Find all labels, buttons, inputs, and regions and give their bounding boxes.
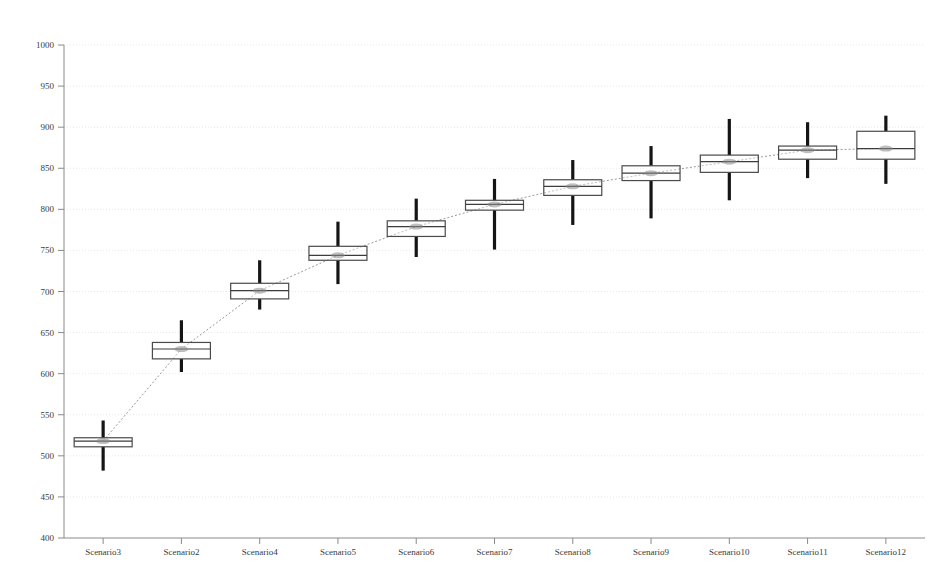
x-tick-label: Scenario2 bbox=[163, 547, 199, 557]
y-tick-label: 750 bbox=[41, 245, 55, 255]
y-tick-label: 500 bbox=[41, 451, 55, 461]
y-tick-label: 900 bbox=[41, 122, 55, 132]
box-plot-item[interactable] bbox=[622, 146, 680, 218]
x-axis-labels: Scenario3Scenario2Scenario4Scenario5Scen… bbox=[85, 547, 906, 557]
mean-marker bbox=[722, 159, 736, 165]
box-plot-item[interactable] bbox=[309, 222, 367, 284]
x-tick-label: Scenario8 bbox=[555, 547, 591, 557]
box-plot-item[interactable] bbox=[152, 320, 210, 372]
box-plot-item[interactable] bbox=[779, 122, 837, 178]
y-tick-label: 550 bbox=[41, 410, 55, 420]
chart-canvas: 4004505005506006507007508008509009501000… bbox=[0, 0, 952, 585]
x-tick-label: Scenario5 bbox=[320, 547, 356, 557]
mean-marker bbox=[174, 346, 188, 352]
mean-marker bbox=[488, 201, 502, 207]
y-tick-label: 1000 bbox=[36, 40, 55, 50]
y-tick-label: 650 bbox=[41, 328, 55, 338]
box-plot-item[interactable] bbox=[74, 421, 132, 471]
x-tick-label: Scenario9 bbox=[633, 547, 669, 557]
y-axis-ticks bbox=[58, 45, 64, 538]
mean-marker bbox=[801, 147, 815, 153]
box-plot-item[interactable] bbox=[231, 260, 289, 309]
y-tick-label: 950 bbox=[41, 81, 55, 91]
x-tick-label: Scenario7 bbox=[477, 547, 513, 557]
mean-marker bbox=[96, 438, 110, 444]
box-plots bbox=[74, 116, 915, 471]
y-tick-label: 450 bbox=[41, 492, 55, 502]
y-tick-label: 850 bbox=[41, 163, 55, 173]
box-plot-item[interactable] bbox=[700, 119, 758, 200]
mean-marker bbox=[253, 288, 267, 294]
mean-marker bbox=[879, 146, 893, 152]
boxplot-chart: 4004505005506006507007508008509009501000… bbox=[0, 0, 952, 585]
x-tick-label: Scenario3 bbox=[85, 547, 121, 557]
y-tick-label: 700 bbox=[41, 287, 55, 297]
box-plot-item[interactable] bbox=[857, 116, 915, 184]
x-tick-label: Scenario10 bbox=[709, 547, 750, 557]
box-iqr[interactable] bbox=[857, 131, 915, 159]
x-tick-label: Scenario12 bbox=[866, 547, 907, 557]
x-axis-ticks bbox=[103, 538, 886, 544]
x-tick-label: Scenario11 bbox=[788, 547, 828, 557]
y-tick-label: 400 bbox=[41, 533, 55, 543]
mean-marker bbox=[644, 170, 658, 176]
x-tick-label: Scenario6 bbox=[398, 547, 434, 557]
gridlines bbox=[64, 45, 925, 497]
x-tick-label: Scenario4 bbox=[242, 547, 278, 557]
box-plot-item[interactable] bbox=[387, 199, 445, 257]
mean-marker bbox=[331, 252, 345, 258]
mean-marker bbox=[566, 183, 580, 189]
y-tick-label: 600 bbox=[41, 369, 55, 379]
y-tick-label: 800 bbox=[41, 204, 55, 214]
mean-marker bbox=[409, 224, 423, 230]
box-plot-item[interactable] bbox=[466, 179, 524, 250]
box-plot-item[interactable] bbox=[544, 160, 602, 225]
y-axis-labels: 4004505005506006507007508008509009501000 bbox=[36, 40, 55, 543]
